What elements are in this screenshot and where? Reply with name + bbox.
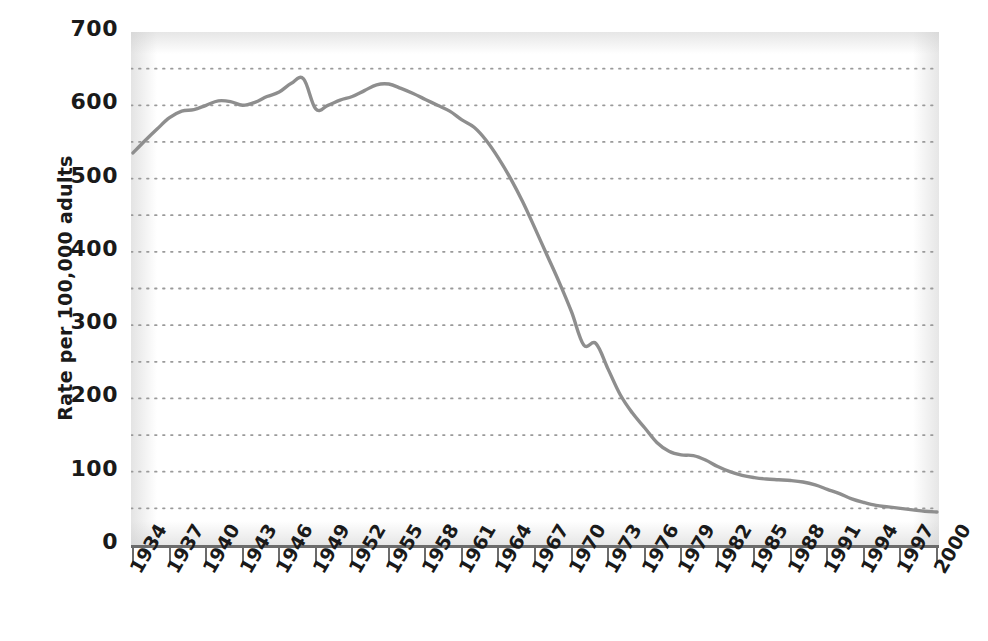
- y-axis-tick-label: 500: [44, 163, 118, 188]
- plot-area: [131, 32, 939, 545]
- y-axis-tick-label: 700: [44, 16, 118, 41]
- y-axis-tick-label: 600: [44, 89, 118, 114]
- series-path: [133, 77, 937, 512]
- y-axis-tick-label: 400: [44, 236, 118, 261]
- x-axis-tick-labels: 1934193719401943194619491952195519581961…: [131, 566, 961, 641]
- data-series-line: [131, 32, 939, 545]
- y-axis-tick-label: 300: [44, 309, 118, 334]
- y-axis-tick-label: 100: [44, 456, 118, 481]
- chart-figure: Rate per 100,000 adults 7006005004003002…: [0, 0, 988, 641]
- y-axis-tick-labels: 7006005004003002001000: [38, 0, 118, 641]
- y-axis-tick-label: 0: [44, 529, 118, 554]
- y-axis-tick-label: 200: [44, 382, 118, 407]
